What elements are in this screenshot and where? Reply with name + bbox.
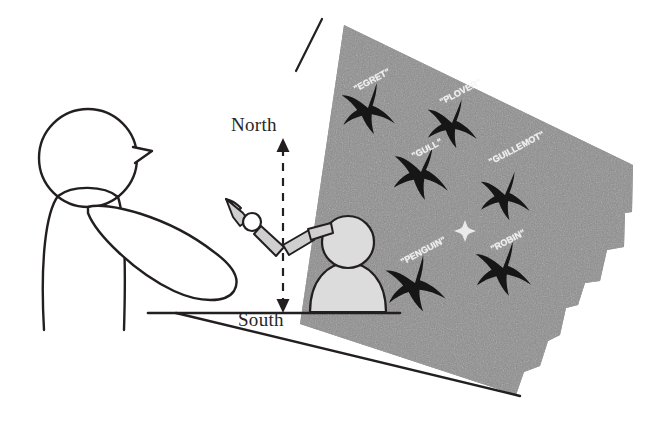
figure-canvas: North South "EGRET""PLOVER""GULL""GUILLE… [0, 0, 655, 443]
projection-screen [290, 18, 645, 408]
north-south-arrow [277, 138, 290, 313]
north-label: North [231, 114, 277, 136]
diagram-svg [0, 0, 655, 443]
human-participant [39, 109, 237, 330]
south-label: South [238, 309, 284, 331]
